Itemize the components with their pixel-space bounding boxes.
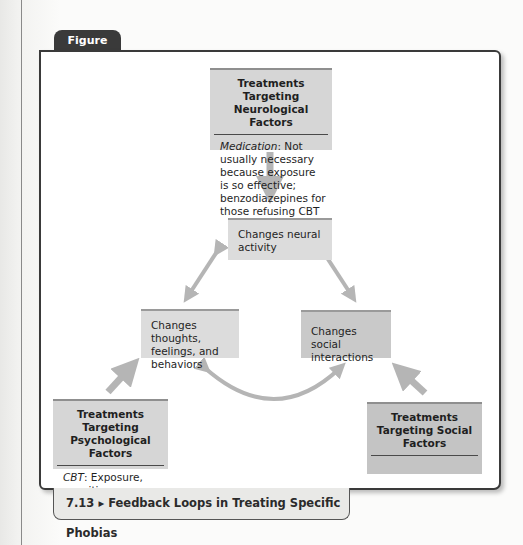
neurological-treatment-box: Treatments Targeting Neurological Factor… <box>210 68 332 150</box>
arrow-psych-to-thoughts <box>108 368 130 392</box>
arrow-thoughts-social <box>205 368 340 399</box>
cbt-label: CBT <box>63 471 84 483</box>
arrow-neural-thoughts <box>188 250 218 296</box>
social-treatment-box: Treatments Targeting Social Factors <box>367 402 482 474</box>
neurological-treatment-body: Medication: Not usually necessary becaus… <box>210 135 332 224</box>
psychological-treatment-title: Treatments Targeting Psychological Facto… <box>57 401 164 466</box>
social-treatment-title: Treatments Targeting Social Factors <box>371 404 478 456</box>
psychological-treatment-box: Treatments Targeting Psychological Facto… <box>53 399 168 469</box>
node-neural-activity: Changes neural activity <box>228 218 332 260</box>
node-social-interactions: Changes social interactions <box>301 310 391 358</box>
medication-label: Medication <box>220 140 277 152</box>
node-thoughts-feelings-behaviors: Changes thoughts, feelings, and behavior… <box>141 309 239 358</box>
figure-caption: 7.13 ▸ Feedback Loops in Treating Specif… <box>53 488 350 520</box>
neurological-treatment-title: Treatments Targeting Neurological Factor… <box>214 70 328 135</box>
arrow-socialtx-to-social <box>402 372 425 393</box>
